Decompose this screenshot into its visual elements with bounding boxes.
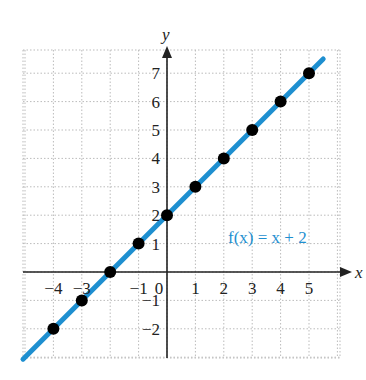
chart: xy−4−3−11234507654321−1−2f(x) = x + 2 [0,0,366,380]
data-point [133,238,145,250]
data-point [218,152,230,164]
y-axis-label: y [160,25,170,44]
x-axis-arrow-icon [340,267,352,277]
x-tick-label: −3 [73,279,91,298]
y-tick-label: −1 [142,291,160,310]
x-axis-label: x [354,263,363,282]
y-tick-label: 2 [152,206,161,225]
data-point [104,266,116,278]
y-tick-label: 4 [152,149,161,168]
function-annotation: f(x) = x + 2 [228,228,307,247]
x-tick-label: 4 [276,279,285,298]
data-point [161,209,173,221]
x-tick-label: 3 [248,279,257,298]
y-tick-label: 5 [152,121,161,140]
data-point [47,323,59,335]
data-point [275,96,287,108]
data-point [303,67,315,79]
data-point [246,124,258,136]
y-tick-label: 6 [152,93,161,112]
y-tick-label: 7 [152,64,161,83]
data-point [189,181,201,193]
y-tick-label: 1 [152,235,161,254]
x-tick-label: 5 [305,279,314,298]
y-tick-label: −2 [142,320,160,339]
x-tick-label: 2 [220,279,229,298]
x-tick-label: −4 [44,279,63,298]
y-axis-arrow-icon [162,46,172,58]
x-tick-label: 1 [191,279,200,298]
y-tick-label: 3 [152,178,161,197]
